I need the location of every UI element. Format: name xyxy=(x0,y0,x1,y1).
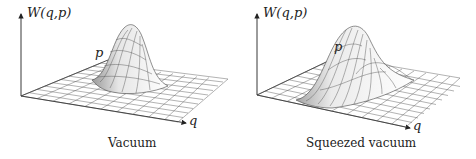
z-axis-label: W(q,p) xyxy=(263,5,307,20)
p-axis-label: p xyxy=(95,45,103,60)
panel-caption: Vacuum xyxy=(108,136,156,150)
p-axis-label: p xyxy=(334,39,342,54)
z-axis-label: W(q,p) xyxy=(27,5,71,20)
panel-vacuum: W(q,p) p q Vacuum xyxy=(0,0,238,159)
q-axis-label: q xyxy=(189,113,197,128)
panel-squeezed-vacuum: W(q,p) p q Squeezed vacuum xyxy=(236,0,474,159)
q-axis-label: q xyxy=(413,118,421,133)
panel-caption: Squeezed vacuum xyxy=(306,136,416,150)
